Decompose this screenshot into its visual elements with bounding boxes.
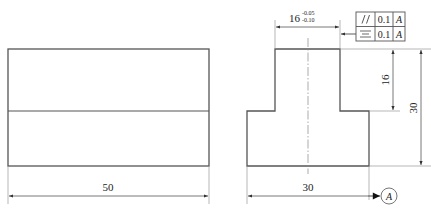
dimension-label-16-top: 16	[289, 12, 301, 24]
fcf-tolerance-2: 0.1	[378, 29, 391, 40]
feature-control-frame: 0.1 0.1 A A	[356, 12, 405, 41]
datum-label: A	[385, 191, 393, 202]
left-view: 50	[8, 49, 209, 204]
dimension-label-16-vertical: 16	[379, 74, 391, 86]
left-view-outline	[8, 49, 209, 166]
tolerance-lower: -0.10	[302, 17, 315, 23]
technical-drawing: 50 16 -0.05 -0.10	[0, 0, 431, 211]
dimension-label-50: 50	[103, 181, 115, 193]
fcf-tolerance-1: 0.1	[378, 14, 391, 25]
dimension-label-30-vertical: 30	[407, 102, 419, 114]
tolerance-upper: -0.05	[302, 10, 315, 16]
right-view: 16 -0.05 -0.10 0.1 0.1 A A	[247, 10, 431, 204]
dimension-label-30-horizontal: 30	[303, 181, 315, 193]
fcf-datum-2: A	[395, 29, 403, 40]
fcf-datum-1: A	[395, 14, 403, 25]
